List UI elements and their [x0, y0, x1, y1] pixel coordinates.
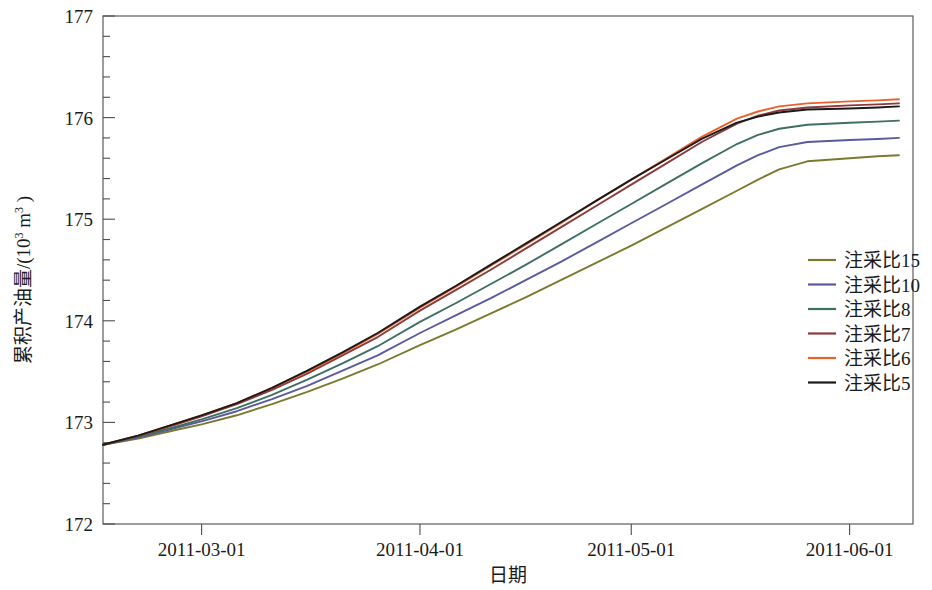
line-chart-canvas: 172173174175176177 2011-03-012011-04-012…	[0, 0, 932, 590]
series-line	[103, 106, 899, 444]
y-axis-title-end: )	[13, 196, 35, 207]
y-tick-label: 176	[65, 108, 94, 129]
x-axis-ticks	[202, 524, 850, 535]
x-tick-label: 2011-05-01	[587, 539, 675, 560]
x-tick-label: 2011-06-01	[806, 539, 894, 560]
y-tick-label: 174	[65, 311, 94, 332]
chart-figure: 172173174175176177 2011-03-012011-04-012…	[0, 0, 932, 590]
x-axis-title-label: 日期	[489, 565, 527, 586]
y-axis-title: 累积产油量/(103 m3 )	[12, 196, 35, 364]
legend-label: 注采比8	[844, 299, 911, 320]
legend-label: 注采比10	[844, 275, 920, 296]
y-tick-label: 177	[65, 6, 94, 27]
y-axis-title-main: 累积产油量/(10	[13, 239, 35, 365]
series-line	[103, 103, 899, 444]
y-axis-title-mid: m	[13, 213, 34, 233]
x-tick-label: 2011-03-01	[158, 539, 246, 560]
series-line	[103, 99, 899, 444]
y-tick-label: 175	[65, 209, 94, 230]
x-axis-tick-labels: 2011-03-012011-04-012011-05-012011-06-01	[158, 539, 894, 560]
legend-label: 注采比6	[844, 348, 911, 369]
plot-area-border	[103, 16, 913, 524]
series-line	[103, 155, 899, 445]
y-tick-label: 173	[65, 412, 94, 433]
series-line	[103, 138, 899, 445]
x-tick-label: 2011-04-01	[376, 539, 464, 560]
legend-label: 注采比15	[844, 250, 920, 271]
y-tick-label: 172	[65, 514, 94, 535]
plot-frame	[103, 16, 913, 524]
legend-label: 注采比7	[844, 324, 911, 345]
y-axis-tick-labels: 172173174175176177	[65, 6, 94, 535]
svg-text:累积产油量/(103 m3 ): 累积产油量/(103 m3 )	[12, 196, 35, 364]
y-axis-ticks	[103, 16, 115, 524]
chart-legend: 注采比15注采比10注采比8注采比7注采比6注采比5	[808, 250, 920, 394]
x-axis-title: 日期	[489, 565, 527, 586]
data-series-group	[103, 99, 899, 444]
legend-label: 注采比5	[844, 373, 911, 394]
